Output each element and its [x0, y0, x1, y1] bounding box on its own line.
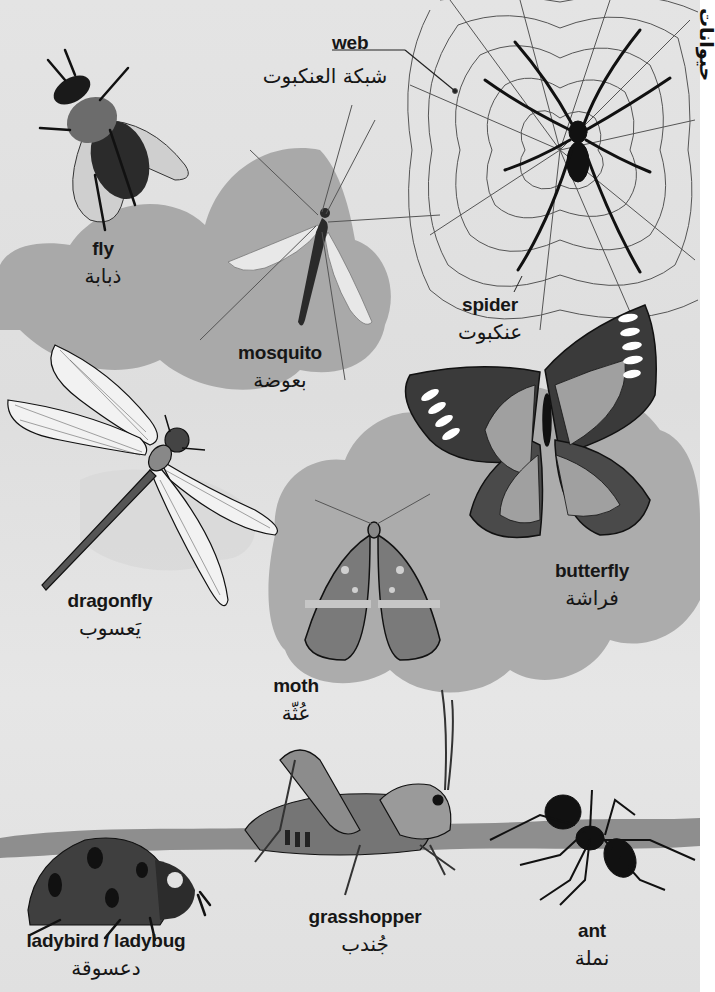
label-grasshopper: grasshopper جُندب [309, 906, 422, 958]
label-spider: spider عنكبوت [458, 294, 522, 346]
label-ant-ar: نملة [575, 944, 609, 972]
label-fly-en: fly [85, 238, 122, 260]
label-ladybird-en: ladybird / ladybug [27, 930, 186, 952]
spider-leader-line [514, 276, 522, 292]
label-mosquito-en: mosquito [238, 342, 322, 364]
label-ant-en: ant [575, 920, 609, 942]
label-ladybird-ar: دعسوقة [27, 954, 186, 982]
label-dragonfly: dragonfly يَعسوب [68, 590, 153, 642]
label-dragonfly-ar: يَعسوب [68, 614, 153, 642]
fly-icon [40, 50, 188, 230]
label-moth: moth عُثّة [273, 675, 319, 727]
label-web-ar-wrap: شبكة العنكبوت [263, 60, 388, 90]
label-mosquito: mosquito بعوضة [238, 342, 322, 394]
illustration-layer [0, 0, 700, 992]
label-fly-ar: ذبابة [85, 262, 122, 290]
label-web: web [332, 32, 368, 54]
label-grasshopper-en: grasshopper [309, 906, 422, 928]
page-margin [700, 0, 715, 992]
label-grasshopper-ar: جُندب [309, 930, 422, 958]
label-butterfly: butterfly فراشة [555, 560, 629, 612]
section-title: حيوانات [694, 8, 715, 78]
label-spider-en: spider [458, 294, 522, 316]
label-fly: fly ذبابة [85, 238, 122, 290]
label-ant: ant نملة [575, 920, 609, 972]
spider-web-icon [408, 0, 698, 335]
label-web-ar: شبكة العنكبوت [263, 62, 388, 90]
label-web-en: web [332, 32, 368, 54]
dictionary-page: web شبكة العنكبوت fly ذبابة mosquito بعو… [0, 0, 700, 992]
label-mosquito-ar: بعوضة [238, 366, 322, 394]
label-butterfly-ar: فراشة [555, 584, 629, 612]
label-dragonfly-en: dragonfly [68, 590, 153, 612]
spider-icon [485, 30, 670, 272]
label-moth-en: moth [273, 675, 319, 697]
label-moth-ar: عُثّة [273, 699, 319, 727]
label-ladybird: ladybird / ladybug دعسوقة [27, 930, 186, 982]
label-spider-ar: عنكبوت [458, 318, 522, 346]
label-butterfly-en: butterfly [555, 560, 629, 582]
